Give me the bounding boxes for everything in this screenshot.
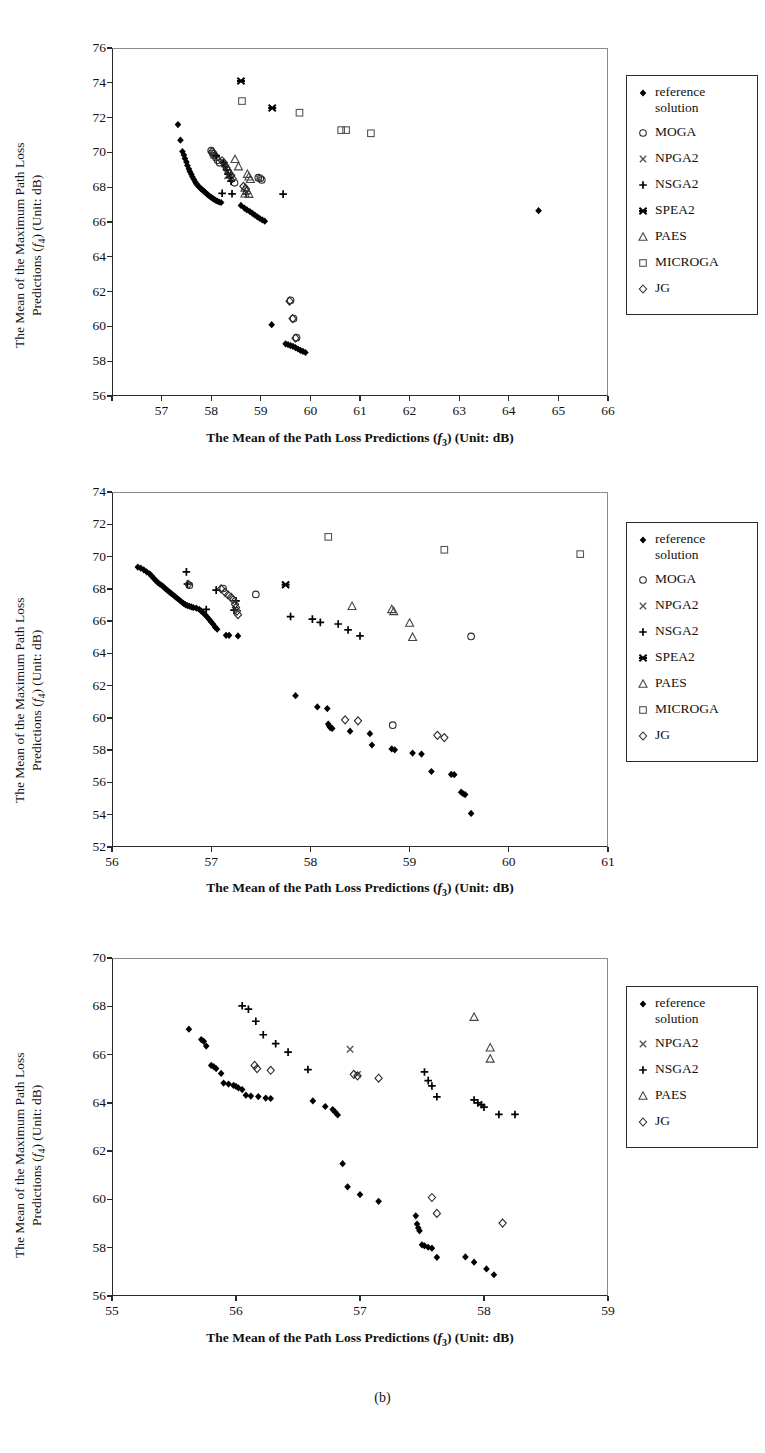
legend-marker-jg [635,727,651,744]
plot-area-top: 5658606264666870727476575859606162636465… [112,48,608,396]
x-tick-mark [607,847,608,852]
data-point-reference-solution [255,1093,262,1100]
data-point-reference-solution [347,728,354,735]
legend-middle: reference solutionMOGANPGA2NSGA2SPEA2PAE… [626,522,758,762]
x-tick-label: 58 [477,1303,491,1319]
filled-diamond-icon [636,86,650,100]
x-tick-label: 62 [403,403,417,419]
legend-item-microga[interactable]: MICROGA [635,701,751,727]
data-point-jg [267,1066,274,1074]
legend-marker-moga [635,571,651,588]
y-tick-label: 72 [93,516,107,532]
legend-item-nsga2[interactable]: NSGA2 [635,1061,751,1087]
legend-item-nsga2[interactable]: NSGA2 [635,176,751,202]
data-point-reference-solution [225,1080,232,1087]
data-point-reference-solution [369,741,376,748]
y-axis-title-line2-post: ) (Unit: dB) [30,629,45,693]
legend-label-jg: JG [651,280,670,296]
x-tick-label: 57 [353,1303,367,1319]
data-point-nsga2 [228,190,236,198]
data-point-nsga2 [433,1093,441,1101]
data-point-moga [468,633,475,640]
plus-icon [636,178,650,192]
data-point-nsga2 [317,619,325,627]
legend-item-npga2[interactable]: NPGA2 [635,597,751,623]
legend-top: reference solutionMOGANPGA2NSGA2SPEA2PAE… [626,75,758,315]
data-point-reference-solution [267,1095,274,1102]
x-tick-label: 57 [204,854,218,870]
y-axis-title-line1: The Mean of the Maximum Path Loss [13,597,28,802]
legend-item-paes[interactable]: PAES [635,1087,751,1113]
legend-item-reference-solution[interactable]: reference solution [635,995,751,1035]
open-triangle-icon [636,230,650,244]
x-tick-label: 61 [601,854,615,870]
legend-item-moga[interactable]: MOGA [635,124,751,150]
data-point-nsga2 [304,1066,312,1074]
y-tick-label: 74 [93,484,107,500]
cross-x-glyph [640,155,646,161]
x-tick-mark [483,1296,484,1301]
y-tick-label: 54 [93,807,107,823]
legend-item-paes[interactable]: PAES [635,675,751,701]
legend-item-npga2[interactable]: NPGA2 [635,1035,751,1061]
y-tick-mark [107,1199,112,1200]
legend-item-moga[interactable]: MOGA [635,571,751,597]
x-tick-mark [409,847,410,852]
legend-item-reference-solution[interactable]: reference solution [635,531,751,571]
y-tick-label: 68 [93,581,107,597]
data-point-microga [325,534,332,541]
legend-marker-moga [635,124,651,141]
y-tick-label: 58 [93,353,107,369]
data-point-microga [296,109,303,116]
y-axis-title-middle: The Mean of the Maximum Path Loss Predic… [0,470,62,930]
legend-marker-spea2 [635,649,651,666]
legend-item-jg[interactable]: JG [635,1113,751,1139]
filled-diamond-icon [636,997,650,1011]
open-square-glyph [640,259,647,266]
y-tick-mark [107,556,112,557]
x-tick-mark [508,396,509,401]
data-point-nsga2 [356,632,364,640]
x-tick-label: 59 [254,403,268,419]
legend-item-jg[interactable]: JG [635,280,751,306]
y-axis-subscript: 4 [36,693,47,698]
legend-item-npga2[interactable]: NPGA2 [635,150,751,176]
legend-item-reference-solution[interactable]: reference solution [635,84,751,124]
data-point-reference-solution [491,1271,498,1278]
data-point-nsga2 [344,626,352,634]
legend-item-microga[interactable]: MICROGA [635,254,751,280]
data-point-reference-solution [471,1259,478,1266]
legend-item-nsga2[interactable]: NSGA2 [635,623,751,649]
legend-item-spea2[interactable]: SPEA2 [635,649,751,675]
y-tick-label: 70 [93,144,107,160]
legend-item-spea2[interactable]: SPEA2 [635,202,751,228]
cross-x-icon [636,599,650,613]
y-tick-mark [107,117,112,118]
legend-label-npga2: NPGA2 [651,1035,699,1051]
data-point-reference-solution [357,1191,364,1198]
plus-icon [636,625,650,639]
legend-marker-spea2 [635,202,651,219]
data-point-spea2 [282,582,290,588]
data-point-spea2 [237,78,245,84]
legend-item-paes[interactable]: PAES [635,228,751,254]
data-point-nsga2 [287,613,295,621]
x-tick-mark [161,396,162,401]
y-tick-mark [107,187,112,188]
legend-bottom: reference solutionNPGA2NSGA2PAESJG [626,986,758,1148]
data-point-reference-solution [434,1254,441,1261]
x-tick-mark [211,396,212,401]
x-tick-label: 59 [601,1303,615,1319]
data-point-reference-solution [235,632,242,639]
y-tick-label: 76 [93,40,107,56]
data-point-reference-solution [428,768,435,775]
legend-item-jg[interactable]: JG [635,727,751,753]
legend-label-microga: MICROGA [651,701,719,717]
legend-label-microga: MICROGA [651,254,719,270]
cross-x-icon [636,152,650,166]
open-triangle-glyph [639,1091,647,1098]
legend-label-reference-solution: reference solution [651,84,705,116]
legend-marker-npga2 [635,150,651,167]
legend-label-npga2: NPGA2 [651,597,699,613]
scatter-canvas-bottom [112,958,608,1296]
